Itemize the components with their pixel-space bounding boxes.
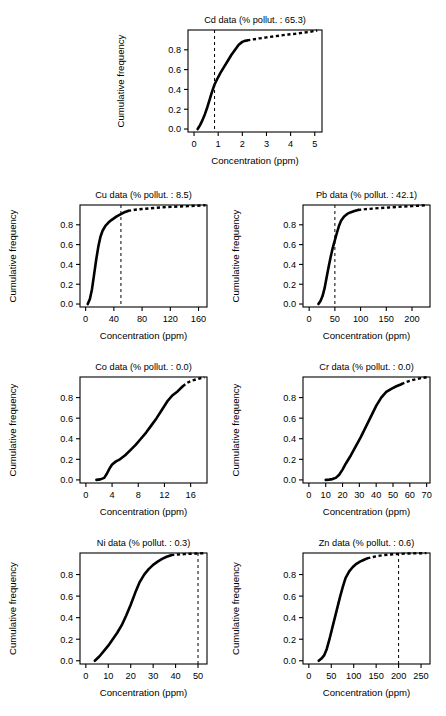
x-tick-label: 0 <box>306 671 311 681</box>
x-tick-label: 100 <box>346 671 361 681</box>
y-axis-label: Cumulative frequency <box>7 209 18 302</box>
x-tick-label: 10 <box>321 490 331 500</box>
x-tick-label: 0 <box>306 490 311 500</box>
y-tick-label: 0.6 <box>283 414 296 424</box>
y-tick-label: 0.0 <box>60 656 73 666</box>
x-tick-label: 40 <box>371 490 381 500</box>
panel-ni: Ni data (% pollut. : 0.3)010203040500.00… <box>0 531 223 712</box>
x-tick-label: 4 <box>288 139 293 149</box>
panel-title: Cr data (% pollut. : 0.0) <box>319 362 413 372</box>
y-tick-label: 0.4 <box>168 85 181 95</box>
y-tick-label: 0.0 <box>168 124 181 134</box>
y-tick-label: 0.2 <box>168 105 181 115</box>
x-axis-label: Concentration (ppm) <box>323 506 410 517</box>
y-axis-label: Cumulative frequency <box>230 209 241 302</box>
ecdf-tail <box>401 377 426 384</box>
y-tick-label: 0.4 <box>283 260 296 270</box>
y-tick-label: 0.6 <box>283 240 296 250</box>
y-axis-label: Cumulative frequency <box>230 562 241 655</box>
y-tick-label: 0.4 <box>60 434 73 444</box>
ecdf-curve <box>198 40 247 129</box>
plot-frame <box>303 377 430 483</box>
ecdf-curve <box>88 211 128 304</box>
ecdf-tail <box>247 31 317 41</box>
y-axis-label: Cumulative frequency <box>230 383 241 476</box>
x-tick-label: 30 <box>148 671 158 681</box>
x-tick-label: 16 <box>186 490 196 500</box>
y-axis-label: Cumulative frequency <box>7 383 18 476</box>
y-tick-label: 0.0 <box>283 656 296 666</box>
x-tick-label: 160 <box>191 314 206 324</box>
ecdf-curve <box>96 386 182 480</box>
x-axis-label: Concentration (ppm) <box>100 330 187 341</box>
x-tick-label: 0 <box>191 139 196 149</box>
y-tick-label: 0.2 <box>283 455 296 465</box>
y-tick-label: 0.2 <box>283 280 296 290</box>
x-tick-label: 50 <box>193 671 203 681</box>
y-tick-label: 0.0 <box>283 475 296 485</box>
x-tick-label: 8 <box>136 490 141 500</box>
plot-frame <box>80 553 207 664</box>
y-tick-label: 0.4 <box>60 260 73 270</box>
x-tick-label: 30 <box>354 490 364 500</box>
ecdf-tail <box>367 553 426 558</box>
ecdf-curve <box>318 210 358 304</box>
x-tick-label: 70 <box>422 490 432 500</box>
panel-zn: Zn data (% pollut. : 0.6)050100150200250… <box>223 531 446 712</box>
y-tick-label: 0.2 <box>60 635 73 645</box>
y-axis-label: Cumulative frequency <box>115 34 126 127</box>
plot-frame <box>303 205 430 307</box>
x-tick-label: 150 <box>379 314 394 324</box>
x-tick-label: 3 <box>264 139 269 149</box>
x-tick-label: 5 <box>312 139 317 149</box>
x-tick-label: 60 <box>405 490 415 500</box>
y-tick-label: 0.8 <box>283 220 296 230</box>
x-tick-label: 10 <box>103 671 113 681</box>
ecdf-curve <box>319 558 367 660</box>
y-tick-label: 0.8 <box>283 570 296 580</box>
y-tick-label: 0.2 <box>283 635 296 645</box>
x-tick-label: 40 <box>109 314 119 324</box>
x-tick-label: 20 <box>126 671 136 681</box>
y-tick-label: 0.0 <box>60 299 73 309</box>
x-tick-label: 20 <box>337 490 347 500</box>
x-tick-label: 12 <box>159 490 169 500</box>
ecdf-tail <box>358 205 427 210</box>
y-tick-label: 0.6 <box>168 65 181 75</box>
x-tick-label: 200 <box>391 671 406 681</box>
panel-co: Co data (% pollut. : 0.0)04812160.00.20.… <box>0 355 223 531</box>
x-tick-label: 120 <box>163 314 178 324</box>
x-tick-label: 50 <box>330 314 340 324</box>
panel-cr: Cr data (% pollut. : 0.0)010203040506070… <box>223 355 446 531</box>
panel-title: Co data (% pollut. : 0.0) <box>95 362 192 372</box>
y-tick-label: 0.4 <box>283 434 296 444</box>
x-tick-label: 50 <box>326 671 336 681</box>
panel-title: Cd data (% pollut. : 65.3) <box>204 15 306 25</box>
x-tick-label: 100 <box>353 314 368 324</box>
panel-title: Cu data (% pollut. : 8.5) <box>95 190 192 200</box>
x-axis-label: Concentration (ppm) <box>211 155 298 166</box>
ecdf-curve <box>95 555 171 661</box>
ecdf-tail <box>183 377 205 386</box>
x-axis-label: Concentration (ppm) <box>100 506 187 517</box>
y-tick-label: 0.0 <box>60 475 73 485</box>
y-tick-label: 0.8 <box>60 220 73 230</box>
x-tick-label: 150 <box>368 671 383 681</box>
plot-frame <box>80 377 207 483</box>
x-axis-label: Concentration (ppm) <box>323 687 410 698</box>
panel-title: Ni data (% pollut. : 0.3) <box>97 538 190 548</box>
ecdf-tail <box>128 205 206 211</box>
x-axis-label: Concentration (ppm) <box>100 687 187 698</box>
y-tick-label: 0.8 <box>60 570 73 580</box>
y-tick-label: 0.2 <box>60 455 73 465</box>
x-tick-label: 0 <box>83 314 88 324</box>
y-tick-label: 0.6 <box>60 414 73 424</box>
y-tick-label: 0.6 <box>283 592 296 602</box>
x-tick-label: 0 <box>83 671 88 681</box>
panel-title: Zn data (% pollut. : 0.6) <box>319 538 415 548</box>
x-tick-label: 0 <box>83 490 88 500</box>
ecdf-curve <box>326 384 402 480</box>
x-axis-label: Concentration (ppm) <box>323 330 410 341</box>
x-tick-label: 4 <box>110 490 115 500</box>
panel-cu: Cu data (% pollut. : 8.5)040801201600.00… <box>0 183 223 355</box>
